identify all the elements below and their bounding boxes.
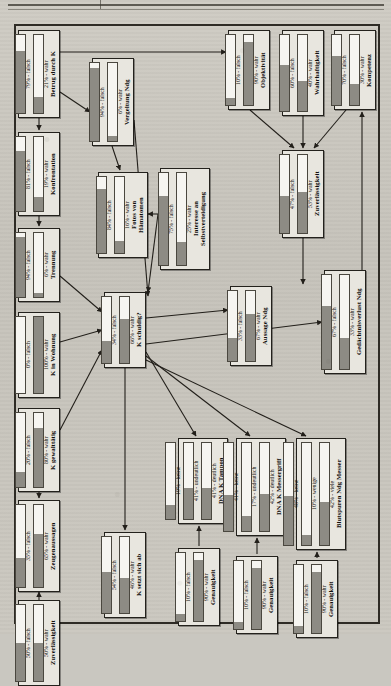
node-title: Konfrontation	[50, 135, 57, 213]
node-zuverlaessigkeit-rechts[interactable]: Zuverlässigkeit53% - wahr47% - falsch	[282, 150, 324, 238]
node-dna-k-tampon[interactable]: DNA K Tampon41% - deutlich41% - undeutli…	[178, 438, 228, 524]
node-trennung[interactable]: Trennung6% - wahr94% - falsch	[18, 228, 60, 302]
state-probability-fill	[34, 534, 43, 587]
node-genauigkeit-tampon[interactable]: Genauigkeit90% - wahr10% - falsch	[178, 548, 220, 626]
node-blutspuren-ndg-messer[interactable]: Blutspuren Ndg Messer42% - viele10% - we…	[296, 438, 346, 550]
state-label: 54% - falsch	[112, 535, 118, 615]
state-label: 70% - falsch	[342, 33, 348, 107]
node-state-chart: 6% - wahr94% - falsch	[88, 61, 124, 143]
state-label: 17% - undeutlich	[252, 441, 258, 533]
state-label: 60% - falsch	[290, 33, 296, 113]
node-state: 54% - falsch	[100, 535, 118, 615]
node-state: 42% - viele	[318, 441, 336, 547]
node-state-chart: 30% - wahr70% - falsch	[330, 33, 366, 107]
node-state: 17% - undeutlich	[240, 441, 258, 533]
node-state: 81% - falsch	[14, 135, 32, 213]
state-probability-bar	[15, 504, 26, 588]
node-state: 66% - wahr	[118, 295, 136, 365]
node-kompetenz[interactable]: Kompetenz30% - wahr70% - falsch	[334, 30, 376, 110]
node-interesse-selbstverteidigung[interactable]: Interesse an Selbstverteidigung25% - wah…	[160, 168, 210, 270]
state-probability-bar	[33, 136, 44, 212]
state-label: 67% - falsch	[332, 273, 338, 371]
state-probability-bar	[176, 172, 187, 266]
node-state: 65% - wahr	[32, 503, 50, 589]
state-probability-bar	[114, 176, 125, 254]
state-probability-bar	[101, 296, 112, 364]
state-probability-bar	[15, 136, 26, 212]
node-zuverlaessigkeit-links[interactable]: Zuverlässigkeit50% - wahr50% - falsch	[18, 600, 60, 686]
node-k-gewalttaetig[interactable]: K gewalttätig80% - wahr20% - falsch	[18, 408, 60, 492]
node-state: 84% - falsch	[95, 175, 113, 255]
node-k-in-wohnung[interactable]: K in Wohnung100% - wahr0% - falsch	[18, 312, 60, 398]
node-state: 10% - falsch	[292, 563, 310, 635]
node-objektivitaet[interactable]: Objektivität90% - wahr10% - falsch	[228, 30, 270, 110]
node-state: 0% - falsch	[14, 315, 32, 395]
state-probability-bar	[201, 442, 212, 520]
node-state: 10% - falsch	[232, 559, 250, 631]
node-state: 42% - deutlich	[258, 441, 276, 533]
state-label: 6% - wahr	[118, 61, 124, 143]
state-probability-bar	[301, 442, 312, 546]
node-zeugenaussagen[interactable]: Zeugenaussagen65% - wahr35% - falsch	[18, 500, 60, 592]
state-probability-bar	[119, 536, 130, 614]
node-state: 10% - falsch	[224, 33, 242, 107]
state-probability-fill	[280, 65, 289, 111]
node-genauigkeit-blut[interactable]: Genauigkeit90% - wahr10% - falsch	[296, 560, 338, 638]
state-probability-bar	[279, 34, 290, 112]
node-state-chart: 53% - wahr47% - falsch	[278, 153, 314, 235]
state-probability-fill	[302, 535, 311, 545]
node-state: 10% - wenige	[300, 441, 318, 547]
state-probability-bar	[245, 290, 256, 362]
node-state: 41% - undeutlich	[182, 441, 200, 521]
node-state: 41% - deutlich	[200, 441, 218, 521]
node-state-chart: 42% - viele10% - wenige48% - keine	[282, 441, 336, 547]
node-vergeltung-ndg[interactable]: Vergeltung Ndg6% - wahr94% - falsch	[92, 58, 134, 146]
state-label: 46% - wahr	[130, 535, 136, 615]
state-probability-bar	[15, 604, 26, 682]
state-probability-fill	[176, 614, 185, 621]
state-probability-bar	[293, 564, 304, 634]
node-state-chart: 46% - wahr54% - falsch	[100, 535, 136, 615]
node-betrug-durch-k[interactable]: Betrug durch K21% - wahr79% - falsch	[18, 30, 60, 118]
node-gedaechtnisverlust-ndg[interactable]: Gedächtnisverlust Ndg33% - wahr67% - fal…	[324, 270, 366, 374]
state-probability-fill	[177, 242, 186, 265]
node-state-chart: 50% - wahr50% - falsch	[14, 603, 50, 683]
node-title: K setzt sich ab	[136, 535, 143, 615]
state-label: 90% - wahr	[204, 551, 210, 623]
node-state: 50% - wahr	[32, 603, 50, 683]
node-state: 90% - wahr	[192, 551, 210, 623]
node-k-schuldig[interactable]: K schuldig?66% - wahr34% - falsch	[104, 292, 146, 368]
state-probability-bar	[311, 564, 322, 634]
state-probability-fill	[16, 472, 25, 487]
state-probability-bar	[89, 62, 100, 142]
state-probability-bar	[183, 442, 194, 520]
state-label: 100% - wahr	[44, 315, 50, 395]
state-probability-fill	[120, 319, 129, 363]
state-probability-fill	[34, 197, 43, 211]
edge-k-schuldig-to-blutspuren-ndg-messer	[146, 360, 306, 436]
node-k-setzt-sich-ab[interactable]: K setzt sich ab46% - wahr54% - falsch	[104, 532, 146, 618]
node-konfrontation[interactable]: Konfrontation19% - wahr81% - falsch	[18, 132, 60, 216]
node-state: 94% - falsch	[14, 231, 32, 299]
node-fotos-von-haematomen[interactable]: Fotos von Hämatomen16% - wahr84% - falsc…	[98, 172, 148, 258]
state-label: 94% - falsch	[26, 231, 32, 299]
state-probability-bar	[33, 504, 44, 588]
state-probability-fill	[34, 643, 43, 681]
node-genauigkeit-messergriff[interactable]: Genauigkeit90% - wahr10% - falsch	[236, 556, 278, 634]
node-state: 16% - wahr	[113, 175, 131, 255]
node-state: 21% - wahr	[32, 33, 50, 115]
state-probability-fill	[102, 341, 111, 363]
state-probability-bar	[15, 316, 26, 394]
node-dna-k-messergriff[interactable]: DNA K Messergriff42% - deutlich17% - und…	[236, 438, 286, 536]
state-probability-bar	[158, 172, 169, 266]
node-state: 90% - wahr	[310, 563, 328, 635]
state-probability-fill	[115, 241, 124, 253]
state-label: 50% - wahr	[44, 603, 50, 683]
state-probability-fill	[350, 84, 359, 105]
state-probability-bar	[279, 154, 290, 234]
state-probability-bar	[339, 274, 350, 370]
node-wahrhaftigkeit[interactable]: Wahrhaftigkeit40% - wahr60% - falsch	[282, 30, 324, 116]
state-label: 25% - wahr	[187, 171, 193, 267]
node-aussage-ndg[interactable]: Aussage Ndg67% - wahr33% - falsch	[230, 286, 272, 366]
state-probability-fill	[34, 428, 43, 487]
